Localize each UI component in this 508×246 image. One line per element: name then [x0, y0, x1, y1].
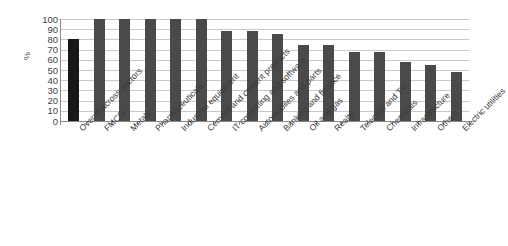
y-tick-label: 100 [42, 15, 58, 24]
bar [68, 39, 79, 121]
y-tick-label: 40 [47, 76, 58, 85]
bar-slot [444, 19, 470, 121]
y-tick-label: 0 [53, 117, 58, 126]
bar-slot [61, 19, 87, 121]
y-tick-label: 30 [47, 86, 58, 95]
x-tick [60, 121, 61, 125]
y-axis-tick-labels: 1009080706050403020100 [32, 14, 58, 124]
y-tick-label: 70 [47, 45, 58, 54]
bar [119, 19, 130, 121]
y-tick-label: 80 [47, 35, 58, 44]
y-tick-label: 50 [47, 66, 58, 75]
bar-slot [342, 19, 368, 121]
y-axis-title: % [22, 52, 32, 60]
y-tick-label: 10 [47, 106, 58, 115]
y-tick-label: 60 [47, 55, 58, 64]
y-tick-label: 90 [47, 25, 58, 34]
y-tick-label: 20 [47, 96, 58, 105]
x-axis-tick-labels: Overall across sectorsFMCGMetalsPharmace… [60, 126, 469, 244]
bar [145, 19, 156, 121]
